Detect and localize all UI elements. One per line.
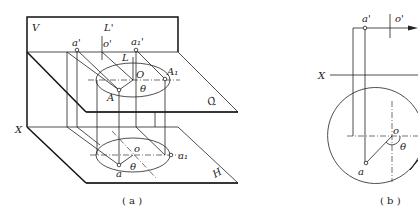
- label-V: V: [32, 22, 41, 33]
- figure-a: V L' a' o' a₁' L O A₁ θ A Q X o a₁ θ a H…: [14, 17, 238, 206]
- label-L: L: [121, 52, 129, 63]
- caption-a: ( a ): [122, 195, 142, 206]
- label-theta-lower: θ: [130, 161, 136, 172]
- label-o-b: o: [393, 125, 399, 136]
- label-theta-upper: θ: [140, 83, 146, 94]
- circle-b: [328, 88, 418, 184]
- point-a-b: [364, 161, 368, 165]
- label-X-b: X: [317, 70, 326, 81]
- label-o-prime: o': [103, 38, 112, 49]
- point-a1: [169, 153, 173, 157]
- label-a-b: a: [358, 166, 364, 177]
- point-A1: [163, 77, 167, 81]
- figure-b: a' o' X o θ a ( b ): [317, 13, 418, 206]
- point-a-prime: [75, 48, 79, 52]
- label-a-prime: a': [72, 37, 81, 48]
- label-a: a: [116, 168, 122, 179]
- label-o: o: [134, 143, 140, 154]
- label-theta-b: θ: [400, 141, 406, 152]
- label-O: O: [136, 69, 144, 80]
- label-X: X: [14, 124, 23, 135]
- projection-diagram: V L' a' o' a₁' L O A₁ θ A Q X o a₁ θ a H…: [0, 0, 418, 216]
- label-A: A: [106, 92, 114, 103]
- point-a1-prime: [134, 48, 138, 52]
- rotation-arrow-icon: [410, 160, 418, 170]
- label-o-prime-b: o': [395, 13, 404, 24]
- label-A1: A₁: [166, 66, 178, 77]
- point-a: [117, 163, 121, 167]
- arrow-right-icon: [408, 26, 418, 31]
- label-L-prime: L': [103, 22, 113, 33]
- label-a1: a₁: [178, 150, 188, 161]
- label-a-prime-b: a': [362, 13, 371, 24]
- point-A: [117, 88, 121, 92]
- label-Q: Q: [205, 94, 217, 107]
- q-plane: [27, 52, 238, 112]
- label-a1-prime: a₁': [131, 36, 144, 47]
- caption-b: ( b ): [380, 195, 401, 206]
- point-a-prime-b: [363, 26, 367, 30]
